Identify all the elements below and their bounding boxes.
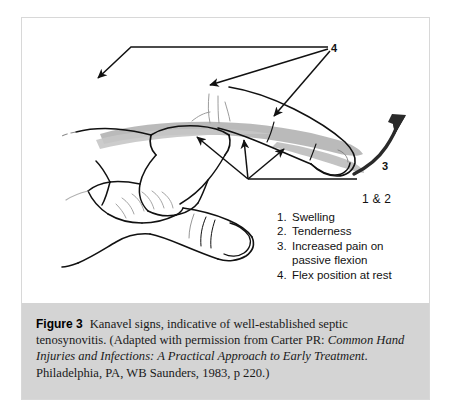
passive-flexion-curved-arrow bbox=[354, 114, 406, 174]
caption-band: Figure 3Kanavel signs, indicative of wel… bbox=[22, 303, 429, 399]
list-item-label: Increased pain on passive flexion bbox=[292, 239, 427, 268]
list-item-label: Flex position at rest bbox=[292, 268, 427, 282]
list-item-text: Flex position at rest bbox=[292, 269, 392, 281]
figure-caption: Figure 3Kanavel signs, indicative of wel… bbox=[36, 316, 415, 381]
list-item-number: 3. bbox=[277, 239, 292, 253]
list-item-label: Swelling bbox=[292, 210, 427, 224]
adjacent-finger-outline bbox=[192, 94, 230, 123]
figure-number-label: Figure 3 bbox=[36, 317, 83, 331]
list-item-text: Increased pain on bbox=[292, 240, 383, 252]
list-item: 4. Flex position at rest bbox=[277, 268, 427, 282]
examiner-thumb-outline bbox=[62, 208, 253, 267]
callout-label-4: 4 bbox=[331, 42, 337, 54]
list-item: 3. Increased pain on passive flexion bbox=[277, 239, 427, 268]
list-item: 1. Swelling bbox=[277, 210, 427, 224]
illustration-area: 4 3 1 & 2 1. Swelling 2. Tenderness bbox=[22, 18, 429, 303]
list-item-number: 2. bbox=[277, 224, 292, 238]
list-item: 2. Tenderness bbox=[277, 224, 427, 238]
skin-fold-lines bbox=[116, 191, 173, 218]
list-item-label: Tenderness bbox=[292, 224, 427, 238]
caption-inner: Figure 3Kanavel signs, indicative of wel… bbox=[36, 316, 415, 381]
list-item-text: Swelling bbox=[292, 211, 335, 223]
figure-frame: 4 3 1 & 2 1. Swelling 2. Tenderness bbox=[21, 17, 430, 400]
callout-label-3: 3 bbox=[382, 160, 388, 172]
forearm-contour bbox=[66, 191, 88, 200]
list-item-text: Tenderness bbox=[292, 225, 351, 237]
list-item-number: 1. bbox=[277, 210, 292, 224]
list-item-number: 4. bbox=[277, 268, 292, 282]
kanavel-signs-list: 1. Swelling 2. Tenderness 3. Increased p… bbox=[277, 210, 427, 282]
figure-container: 4 3 1 & 2 1. Swelling 2. Tenderness bbox=[0, 0, 451, 413]
list-item-text-continued: passive flexion bbox=[292, 253, 427, 267]
callout-label-1-and-2: 1 & 2 bbox=[362, 192, 391, 206]
callout-arrows-sign-4 bbox=[98, 47, 330, 116]
